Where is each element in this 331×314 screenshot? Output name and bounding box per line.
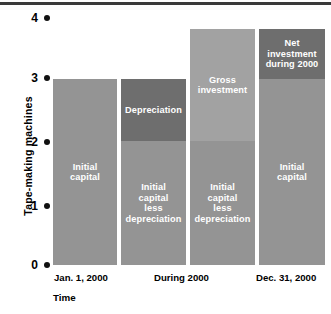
bar-capital-depreciation: Initial capital less depreciation Deprec… <box>121 79 186 265</box>
segment-initial-capital-label: Initial capital <box>68 162 102 183</box>
segment-depreciation: Depreciation <box>121 79 186 141</box>
segment-initial-capital-less-depreciation-2: Initial capital less depreciation <box>190 141 255 265</box>
segment-gross-investment-label: Gross investment <box>196 75 250 96</box>
segment-initial-capital: Initial capital <box>53 79 117 265</box>
segment-net-investment: Net investment during 2000 <box>259 29 325 79</box>
x-tick-label-dec-31: Dec. 31, 2000 <box>256 272 316 283</box>
capital-stock-bar-chart: Tape-making machines 4 3 2 1 0 Initial c… <box>0 0 331 314</box>
segment-initial-capital-less-depreciation: Initial capital less depreciation <box>121 141 186 265</box>
segment-gross-investment: Gross investment <box>190 29 255 141</box>
segment-initial-capital-final: Initial capital <box>259 79 325 265</box>
segment-initial-capital-less-depreciation-2-label: Initial capital less depreciation <box>193 182 253 224</box>
segment-depreciation-label: Depreciation <box>123 105 184 116</box>
plot-area: Initial capital Initial capital less dep… <box>0 0 331 314</box>
bar-capital-dec-31: Initial capital Net investment during 20… <box>259 29 325 265</box>
bar-capital-gross-investment: Initial capital less depreciation Gross … <box>190 29 255 265</box>
x-tick-label-jan-1: Jan. 1, 2000 <box>54 272 108 283</box>
x-axis-title: Time <box>53 292 76 303</box>
segment-net-investment-label: Net investment during 2000 <box>264 38 321 70</box>
x-tick-label-during-2000: During 2000 <box>154 272 209 283</box>
bar-capital-jan-1: Initial capital <box>53 79 117 265</box>
segment-initial-capital-final-label: Initial capital <box>275 162 309 183</box>
segment-initial-capital-less-depreciation-label: Initial capital less depreciation <box>124 182 184 224</box>
